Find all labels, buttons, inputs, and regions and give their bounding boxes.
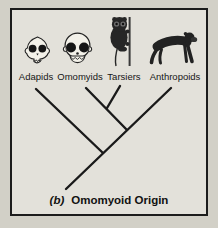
figure-caption: (b)Omomyoid Origin — [11, 194, 207, 206]
caption-title: Omomyoid Origin — [71, 194, 168, 206]
taxon-label-omomyids: Omomyids — [57, 71, 102, 82]
tarsier-icon — [106, 15, 136, 68]
caption-prefix: (b) — [50, 194, 65, 206]
omomyid-skull-icon — [60, 32, 95, 65]
branch-adapids — [36, 89, 103, 153]
anthropoid-icon — [147, 29, 199, 66]
taxon-label-tarsiers: Tarsiers — [107, 71, 140, 82]
branch-tarsiers — [107, 86, 120, 108]
adapid-skull-icon — [23, 36, 52, 64]
taxon-label-adapids: Adapids — [19, 71, 53, 82]
taxon-label-anthropoids: Anthropoids — [150, 71, 201, 82]
branch-root-anthropoids — [66, 88, 171, 189]
